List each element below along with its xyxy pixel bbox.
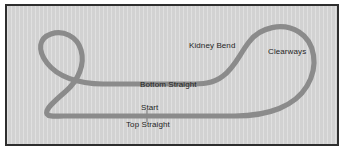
track-svg xyxy=(7,6,337,144)
map-label-clearways: Clearways xyxy=(268,47,306,56)
map-label-bottom-straight: Bottom Straight xyxy=(140,80,197,89)
circuit-map-figure: Kidney Bend Clearways Bottom Straight St… xyxy=(0,0,347,156)
map-label-kidney-bend: Kidney Bend xyxy=(189,41,235,50)
circuit-track-path xyxy=(41,27,314,116)
map-label-top-straight: Top Straight xyxy=(126,120,170,129)
map-label-start: Start xyxy=(141,103,158,112)
map-frame: Kidney Bend Clearways Bottom Straight St… xyxy=(5,4,339,146)
